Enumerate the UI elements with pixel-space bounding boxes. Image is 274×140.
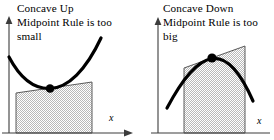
curve-concave-up xyxy=(9,38,101,89)
midpoint-dot-left xyxy=(46,84,55,93)
panel-concave-down: Concave Down Midpoint Rule is too big x xyxy=(137,0,274,140)
y-axis-arrow-right xyxy=(155,17,162,25)
x-axis-label-right: x xyxy=(257,115,261,126)
x-axis-label-left: x xyxy=(109,112,113,123)
caption-concave-up: Concave Up Midpoint Rule is too small xyxy=(17,1,132,43)
midpoint-dot-right xyxy=(207,53,216,62)
x-axis-arrow-left xyxy=(124,129,133,136)
panel-concave-up: Concave Up Midpoint Rule is too small x xyxy=(0,0,137,140)
y-axis-arrow-left xyxy=(6,16,13,24)
figure-root: Concave Up Midpoint Rule is too small x xyxy=(0,0,274,140)
caption-concave-down: Concave Down Midpoint Rule is too big xyxy=(163,1,274,43)
